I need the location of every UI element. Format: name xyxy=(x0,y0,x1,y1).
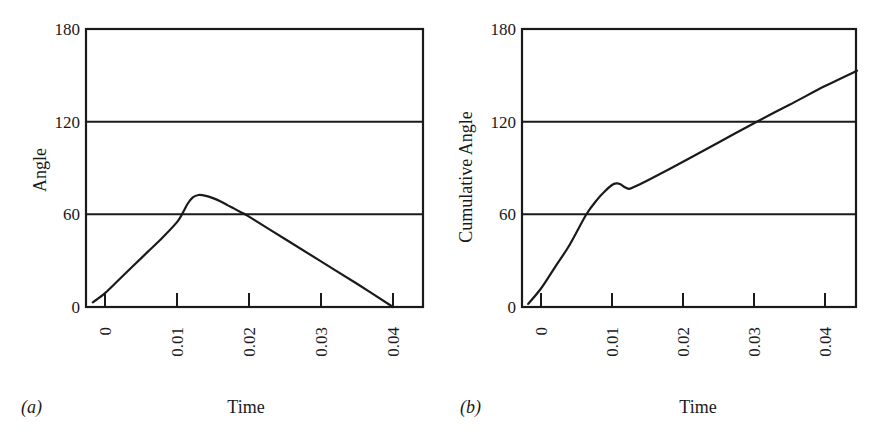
x-tick-label: 0 xyxy=(96,327,115,336)
data-line-a xyxy=(93,195,393,307)
x-tick-label: 0.02 xyxy=(674,327,693,357)
figure: 00.010.020.030.04 060120180 Angle Time (… xyxy=(0,0,875,437)
panel-label-a: (a) xyxy=(21,397,42,418)
y-tick-label: 60 xyxy=(499,205,516,224)
chart-panel-b: 00.010.020.030.04 060120180 Cumulative A… xyxy=(456,20,857,418)
y-tick-label: 0 xyxy=(72,298,81,317)
y-tick-label: 0 xyxy=(508,298,517,317)
y-tick-label: 180 xyxy=(55,20,81,39)
plot-frame-a xyxy=(86,29,423,307)
panel-label-b: (b) xyxy=(460,397,481,418)
gridlines-a xyxy=(86,122,423,215)
chart-panel-a: 00.010.020.030.04 060120180 Angle Time (… xyxy=(21,20,423,418)
y-axis-label-a: Angle xyxy=(30,148,50,192)
x-ticks-a: 00.010.020.030.04 xyxy=(96,293,403,357)
x-tick-label: 0 xyxy=(532,327,551,336)
x-tick-label: 0.01 xyxy=(168,327,187,357)
x-axis-label-a: Time xyxy=(227,397,264,417)
y-tick-label: 120 xyxy=(55,113,81,132)
y-axis-label-b: Cumulative Angle xyxy=(456,111,476,242)
x-tick-label: 0.04 xyxy=(384,327,403,357)
x-tick-label: 0.03 xyxy=(312,327,331,357)
gridlines-b xyxy=(522,122,856,215)
x-axis-label-b: Time xyxy=(679,397,716,417)
x-tick-label: 0.03 xyxy=(745,327,764,357)
plot-frame-b xyxy=(522,29,856,307)
y-ticks-b: 060120180 xyxy=(491,20,517,317)
y-tick-label: 60 xyxy=(63,205,80,224)
x-tick-label: 0.02 xyxy=(240,327,259,357)
y-tick-label: 120 xyxy=(491,113,517,132)
x-tick-label: 0.01 xyxy=(603,327,622,357)
y-ticks-a: 060120180 xyxy=(55,20,81,317)
x-ticks-b: 00.010.020.030.04 xyxy=(532,293,835,357)
x-tick-label: 0.04 xyxy=(816,327,835,357)
data-line-b xyxy=(528,71,857,304)
y-tick-label: 180 xyxy=(491,20,517,39)
